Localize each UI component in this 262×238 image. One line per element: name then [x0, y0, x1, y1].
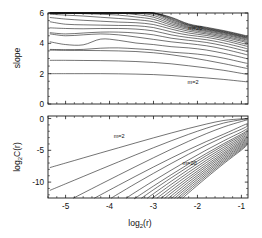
curve-m-10: [148, 133, 248, 198]
curve-m-20: [183, 145, 247, 198]
xtick-label: -5: [62, 202, 70, 211]
top-panel-annotations: m=20m=2: [188, 25, 203, 84]
curve-m-16: [172, 141, 247, 198]
scientific-figure: 0246 slope m=20m=2 0-5-10 -5-4-3-2-1 log…: [0, 0, 262, 238]
xtick-label: -1: [238, 202, 246, 211]
curve-m-4: [74, 120, 247, 198]
curve-m-18: [178, 143, 247, 198]
curve-m-14: [165, 138, 247, 198]
curve-m-12: [157, 136, 247, 198]
ytick-label: 0: [39, 115, 44, 124]
curve-m-3: [50, 119, 247, 190]
bottom-panel-annotations: m=2m=20: [114, 133, 197, 166]
bottom-panel-xtick-labels: -5-4-3-2-1: [62, 202, 246, 211]
figure-container: 0246 slope m=20m=2 0-5-10 -5-4-3-2-1 log…: [0, 0, 262, 238]
xtick-label: -2: [194, 202, 202, 211]
curve-annotation: m=20: [188, 25, 202, 31]
slope-axis-title: slope: [12, 48, 22, 69]
curve-m-6: [111, 126, 247, 198]
top-panel-ytick-labels: 0246: [39, 9, 44, 109]
correlation-curves: [50, 119, 247, 199]
curve-annotation: m=2: [188, 79, 199, 85]
top-panel: 0246 slope m=20m=2: [12, 9, 248, 109]
slope-curves: [50, 13, 247, 82]
log-r-axis-title: log2(r): [128, 218, 152, 229]
ytick-label: 0: [39, 100, 44, 109]
xtick-label: -3: [150, 202, 158, 211]
bottom-panel-ytick-labels: 0-5-10: [32, 115, 44, 188]
curve-annotation: m=20: [182, 160, 196, 166]
ytick-label: -5: [37, 146, 45, 155]
ytick-label: 2: [39, 70, 44, 79]
xtick-label: -4: [106, 202, 114, 211]
ytick-label: -10: [32, 178, 44, 187]
curve-m-4: [50, 50, 247, 68]
ytick-label: 6: [39, 9, 44, 18]
curve-m-2: [50, 74, 247, 82]
ytick-label: 4: [39, 39, 44, 48]
curve-m-17: [175, 142, 247, 198]
correlation-axis-title: log2C(r): [12, 142, 23, 172]
bottom-panel: 0-5-10 -5-4-3-2-1 log2C(r) log2(r) m=2m=…: [12, 115, 248, 229]
curve-annotation: m=2: [114, 133, 125, 139]
curve-m-15: [50, 13, 247, 40]
